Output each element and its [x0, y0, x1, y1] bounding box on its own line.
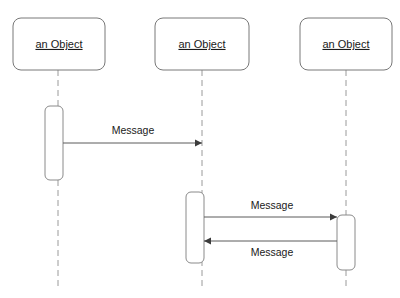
message-arrow-1[interactable]: Message	[63, 124, 202, 147]
message-arrowhead-2	[330, 214, 337, 221]
message-label-1: Message	[112, 124, 155, 136]
activation-bar-2[interactable]	[186, 192, 204, 263]
object-label-2: an Object	[178, 38, 225, 50]
message-label-2: Message	[251, 199, 294, 211]
message-arrow-2[interactable]: Message	[204, 199, 337, 221]
message-arrowhead-3	[204, 238, 211, 245]
lifeline-group-3[interactable]: an Object	[300, 18, 392, 288]
object-label-1: an Object	[35, 38, 82, 50]
sequence-diagram-svg: an Object an Object an Object Message	[0, 0, 400, 298]
lifeline-group-2[interactable]: an Object	[155, 18, 249, 288]
activation-bar-1[interactable]	[45, 106, 63, 180]
lifeline-group-1[interactable]: an Object	[13, 18, 105, 288]
activation-bar-3[interactable]	[337, 215, 355, 270]
object-label-3: an Object	[322, 38, 369, 50]
sequence-diagram-canvas: an Object an Object an Object Message	[0, 0, 400, 298]
message-label-3: Message	[251, 246, 294, 258]
message-arrow-3[interactable]: Message	[204, 238, 337, 258]
message-arrowhead-1	[195, 140, 202, 147]
